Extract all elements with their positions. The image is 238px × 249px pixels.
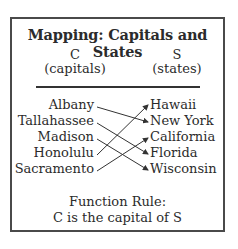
mapping-diagram-frame: Mapping: Capitals and States C (capitals… — [10, 17, 225, 232]
arrow-honolulu-hawaii — [97, 105, 148, 155]
arrow-tallahassee-florida — [97, 123, 148, 154]
function-rule-heading: Function Rule: — [12, 194, 223, 210]
arrow-albany-new-york — [97, 107, 148, 122]
function-rule-text: C is the capital of S — [12, 210, 223, 226]
function-rule: Function Rule: C is the capital of S — [12, 194, 223, 226]
arrow-sacramento-california — [97, 138, 148, 171]
